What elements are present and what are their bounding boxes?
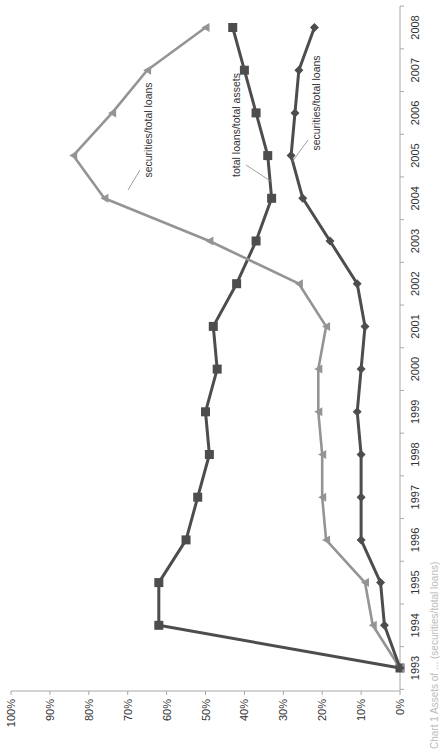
category-tick-label: 1997 <box>409 485 421 509</box>
diamond-marker <box>357 450 366 459</box>
square-marker <box>154 578 163 587</box>
value-tick-label: 40% <box>238 699 250 721</box>
category-tick-label: 2006 <box>409 101 421 125</box>
category-tick-label: 2005 <box>409 143 421 167</box>
square-marker <box>228 23 237 32</box>
category-tick-label: 1996 <box>409 528 421 552</box>
category-tick-label: 1993 <box>409 656 421 680</box>
line-chart: 0%10%20%30%40%50%60%70%80%90%100% 199319… <box>0 0 443 749</box>
diamond-marker <box>353 407 362 416</box>
diamond-marker <box>357 365 366 374</box>
total-loans-total-assets-label: total loans/total assets <box>230 73 242 177</box>
category-tick-label: 2003 <box>409 229 421 253</box>
value-tick-label: 80% <box>83 699 95 721</box>
value-tick-label: 20% <box>316 699 328 721</box>
diamond-marker <box>310 23 319 32</box>
series-line <box>291 28 400 669</box>
diamond-marker <box>360 322 369 331</box>
category-tick-label: 1995 <box>409 570 421 594</box>
diamond-marker <box>380 621 389 630</box>
value-tick-label: 10% <box>355 699 367 721</box>
square-marker <box>154 621 163 630</box>
category-tick-label: 2004 <box>409 186 421 210</box>
securities-total-loans-label-2: securities/total loans <box>310 55 322 150</box>
category-tick-label: 1998 <box>409 442 421 466</box>
square-marker <box>252 108 261 117</box>
series-square <box>154 23 404 673</box>
triangle-marker <box>295 279 303 288</box>
square-marker <box>263 151 272 160</box>
triangle-marker <box>69 151 77 160</box>
square-marker <box>213 365 222 374</box>
value-tick-label: 50% <box>200 699 212 721</box>
chart-caption: Chart 1 Assets of ... (securities/total … <box>429 562 440 749</box>
value-tick-label: 30% <box>277 699 289 721</box>
category-tick-label: 2007 <box>409 58 421 82</box>
square-marker <box>182 535 191 544</box>
triangle-marker <box>205 237 213 246</box>
diamond-marker <box>357 493 366 502</box>
diamond-marker <box>357 535 366 544</box>
square-marker <box>205 450 214 459</box>
securities-total-loans-label: securities/total loans <box>142 82 154 177</box>
diamond-marker <box>290 108 299 117</box>
square-marker <box>201 407 210 416</box>
category-tick-label: 1994 <box>409 613 421 637</box>
category-tick-label: 2001 <box>409 314 421 338</box>
value-tick-label: 0% <box>394 699 406 715</box>
value-tick-label: 60% <box>161 699 173 721</box>
securities-total-loans-label-2-leader <box>292 140 308 162</box>
square-marker <box>232 279 241 288</box>
securities-total-loans-label-leader <box>128 170 140 190</box>
value-axis: 0%10%20%30%40%50%60%70%80%90%100% <box>5 691 406 727</box>
value-tick-label: 100% <box>5 699 17 727</box>
category-axis: 1993199419951996199719981999200020012002… <box>400 6 421 691</box>
square-marker <box>209 322 218 331</box>
category-tick-label: 1999 <box>409 400 421 424</box>
category-tick-label: 2008 <box>409 15 421 39</box>
diamond-marker <box>376 578 385 587</box>
value-tick-label: 90% <box>44 699 56 721</box>
square-marker <box>193 493 202 502</box>
square-marker <box>267 194 276 203</box>
category-tick-label: 2000 <box>409 357 421 381</box>
square-marker <box>252 237 261 246</box>
diamond-marker <box>294 66 303 75</box>
category-tick-label: 2002 <box>409 271 421 295</box>
series-diamond <box>287 23 405 673</box>
value-tick-label: 70% <box>122 699 134 721</box>
